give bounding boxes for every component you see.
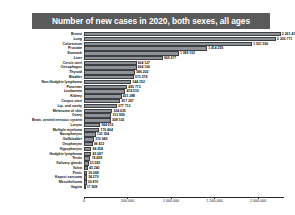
bar-track: 2 261 419 [84, 32, 295, 36]
bar-row-label: Oesophagus [0, 65, 84, 69]
bar-row: Nasopharynx133 354 [0, 132, 295, 136]
bar-row: Leukaemia474 519 [0, 89, 295, 93]
bar-track: 184 615 [84, 123, 295, 127]
bar-row-label: Vagina [0, 185, 84, 189]
bar-value-label: 1 414 259 [207, 46, 223, 50]
bar-value-label: 604 100 [137, 65, 150, 69]
bar-row-label: Non-Hodgkin lymphoma [0, 80, 84, 84]
bar-row-label: Breast [0, 32, 84, 36]
bar-value-label: 45 240 [88, 166, 100, 170]
bar-chart: Breast2 261 419Lung2 206 771Colorectum1 … [0, 32, 295, 197]
bar-row: Thyroid586 202 [0, 70, 295, 74]
bar [84, 32, 281, 36]
bar-value-label: 36 068 [87, 171, 99, 175]
bar-value-label: 905 677 [163, 56, 176, 60]
x-axis-tick-label: 1 500 000 [206, 200, 222, 204]
bar-track: 83 087 [84, 152, 295, 156]
bar-row: Stomach1 089 103 [0, 51, 295, 55]
bar-row-label: Bladder [0, 75, 84, 79]
bar [84, 65, 137, 69]
bar-row-label: Thyroid [0, 70, 84, 74]
bar-row-label: Corpus uteri [0, 99, 84, 103]
bar-value-label: 2 261 419 [281, 32, 295, 36]
bar-track: 377 713 [84, 104, 295, 108]
chart-title-banner: Number of new cases in 2020, both sexes,… [32, 13, 270, 29]
bar-value-label: 17 908 [86, 185, 98, 189]
bar-row: Vulva45 240 [0, 166, 295, 170]
bar-row: Colorectum1 931 590 [0, 42, 295, 46]
bar-row-label: Penis [0, 171, 84, 175]
bar-row-label: Larynx [0, 123, 84, 127]
bar-track: 544 352 [84, 80, 295, 84]
bar [84, 104, 117, 108]
x-axis-tick-label: 1 000 000 [163, 200, 179, 204]
x-axis-line [84, 197, 284, 198]
bar-row-label: Mesothelioma [0, 180, 84, 184]
bar-track: 313 959 [84, 113, 295, 117]
bar-row-label: Testis [0, 156, 84, 160]
bar-row: Penis36 068 [0, 171, 295, 175]
bar-row: Kaposi sarcoma34 270 [0, 175, 295, 179]
bar-track: 586 202 [84, 70, 295, 74]
bar-row: Prostate1 414 259 [0, 46, 295, 50]
bar-track: 905 677 [84, 56, 295, 60]
bar-track: 115 949 [84, 137, 295, 141]
bar-value-label: 604 127 [137, 61, 150, 65]
bar-value-label: 2 206 771 [276, 37, 292, 41]
bar-row-label: Kaposi sarcoma [0, 175, 84, 179]
bar-track: 1 089 103 [84, 51, 295, 55]
bar [84, 128, 99, 132]
bar-row-label: Kidney [0, 94, 84, 98]
bar [84, 51, 179, 55]
bar-row-label: Hypopharynx [0, 147, 84, 151]
bar-row-label: Pancreas [0, 85, 84, 89]
bar-value-label: 176 404 [99, 128, 112, 132]
bar [84, 89, 125, 93]
bar-value-label: 30 870 [87, 180, 99, 184]
bar-value-label: 308 102 [111, 118, 124, 122]
bar-row-label: Stomach [0, 51, 84, 55]
bar [84, 46, 207, 50]
bar-row-label: Multiple myeloma [0, 128, 84, 132]
x-axis-tick-label: 500 000 [121, 200, 134, 204]
bar [84, 37, 276, 41]
x-axis-tick-label: 2 000 000 [250, 200, 266, 204]
bar-value-label: 133 354 [96, 132, 109, 136]
bar-row-label: Colorectum [0, 42, 84, 46]
bar-track: 53 583 [84, 161, 295, 165]
bar-value-label: 313 959 [111, 113, 124, 117]
bar-track: 17 908 [84, 185, 295, 189]
bar-value-label: 184 615 [100, 123, 113, 127]
bar [84, 123, 100, 127]
bar-row-label: Prostate [0, 46, 84, 50]
bar-value-label: 34 270 [87, 175, 99, 179]
bar-track: 604 127 [84, 61, 295, 65]
bar-row-label: Cervix uteri [0, 61, 84, 65]
bar-row: Non-Hodgkin lymphoma544 352 [0, 80, 295, 84]
bar-value-label: 544 352 [131, 80, 144, 84]
bar [84, 132, 96, 136]
bar-track: 30 870 [84, 180, 295, 184]
bar-value-label: 586 202 [135, 70, 148, 74]
x-axis: 0500 0001 000 0001 500 0002 000 000 [84, 197, 284, 211]
bar-value-label: 324 635 [112, 109, 125, 113]
bar-row-label: Leukaemia [0, 89, 84, 93]
bar-row-label: Oropharynx [0, 142, 84, 146]
bar-value-label: 1 931 590 [252, 42, 268, 46]
bar [84, 80, 131, 84]
bar-row: Breast2 261 419 [0, 32, 295, 36]
bar-value-label: 98 412 [93, 142, 105, 146]
bar-value-label: 74 458 [90, 156, 102, 160]
bar [84, 70, 135, 74]
bar [84, 142, 93, 146]
bar-row-label: Brain, central nervous system [0, 118, 84, 122]
bar-row: Bladder573 278 [0, 75, 295, 79]
bar-row: Salivary glands53 583 [0, 161, 295, 165]
bar [84, 109, 112, 113]
bar-row-label: Melanoma of skin [0, 109, 84, 113]
bar-row: Lip, oral cavity377 713 [0, 104, 295, 108]
bar-row: Larynx184 615 [0, 123, 295, 127]
bar-track: 1 414 259 [84, 46, 295, 50]
bar [84, 56, 163, 60]
bar-row-label: Salivary glands [0, 161, 84, 165]
